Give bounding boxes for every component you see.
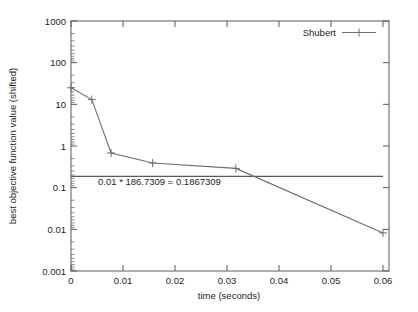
line-chart: 1000 100 10 1 0.1 0.01 0.001 0 0.01 0.02…: [0, 0, 418, 312]
legend-label-shubert: Shubert: [303, 27, 337, 38]
plot-frame: [71, 21, 389, 271]
x-axis-title: time (seconds): [198, 290, 260, 301]
y-tick-label: 0.01: [48, 224, 67, 235]
threshold-annotation: 0.01 * 186.7309 = 0.1867309: [98, 176, 221, 187]
y-tick-label: 1000: [45, 16, 66, 27]
y-tick-labels: 1000 100 10 1 0.1 0.01 0.001: [42, 16, 66, 277]
y-axis-minor-ticks: [71, 34, 75, 270]
series-shubert-line: [71, 88, 383, 233]
x-tick-label: 0.06: [374, 275, 393, 286]
x-tick-label: 0.01: [114, 275, 133, 286]
chart-figure: 1000 100 10 1 0.1 0.01 0.001 0 0.01 0.02…: [0, 0, 418, 312]
x-tick-labels: 0 0.01 0.02 0.03 0.04 0.05 0.06: [68, 275, 392, 286]
x-axis-ticks: [71, 21, 383, 271]
y-axis-major-ticks: [71, 21, 389, 271]
x-tick-label: 0: [68, 275, 73, 286]
x-tick-label: 0.05: [322, 275, 341, 286]
y-tick-label: 0.1: [53, 182, 66, 193]
y-tick-label: 0.001: [42, 266, 66, 277]
y-tick-label: 10: [55, 99, 66, 110]
legend-swatch-marker: [355, 29, 363, 37]
x-tick-label: 0.04: [270, 275, 289, 286]
x-tick-label: 0.03: [218, 275, 237, 286]
x-tick-label: 0.02: [166, 275, 185, 286]
y-axis-title: best objective function value (shifted): [7, 68, 18, 224]
y-tick-label: 1: [61, 141, 66, 152]
y-tick-label: 100: [50, 57, 66, 68]
legend: Shubert: [303, 27, 376, 38]
